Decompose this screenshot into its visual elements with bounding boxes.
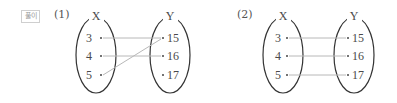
domain-set-ellipse — [263, 17, 303, 93]
codomain-element: 16 — [352, 49, 364, 63]
diagram-2: X Y 3 4 5 15 16 17 — [263, 9, 374, 93]
domain-label: X — [92, 9, 101, 23]
domain-element: 3 — [275, 31, 281, 45]
codomain-element: 15 — [352, 31, 364, 45]
codomain-element: 17 — [167, 68, 179, 82]
domain-label: X — [279, 9, 288, 23]
domain-element: 5 — [275, 68, 281, 82]
codomain-element: 16 — [167, 49, 179, 63]
diagram-1: X Y 3 4 5 15 16 17 — [76, 9, 190, 93]
codomain-element: 15 — [167, 31, 179, 45]
domain-element: 3 — [86, 31, 92, 45]
mapping-diagrams: X Y 3 4 5 15 16 17 X Y 3 4 5 15 16 17 — [0, 0, 397, 103]
codomain-label: Y — [166, 9, 175, 23]
domain-element: 4 — [275, 49, 281, 63]
domain-element: 4 — [86, 49, 92, 63]
domain-element: 5 — [86, 68, 92, 82]
domain-set-ellipse — [76, 17, 116, 93]
codomain-element: 17 — [352, 68, 364, 82]
mapping-line-5-15 — [103, 39, 161, 75]
codomain-label: Y — [350, 9, 359, 23]
